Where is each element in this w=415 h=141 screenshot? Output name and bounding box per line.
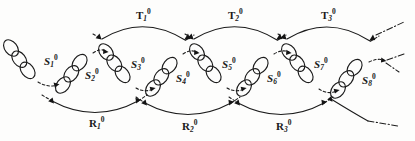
link-arrow-S7-S8: [319, 89, 340, 94]
figure-root: S10 S20 S30 S40 S50 S60 S70 S80 T10 T20: [0, 0, 415, 141]
node-label-S1: S10: [44, 53, 58, 69]
node-chain-S5[interactable]: [186, 41, 224, 86]
bottom-arc-R3[interactable]: [229, 97, 333, 115]
arc-label-T1: T10: [136, 7, 151, 23]
node-chain-S1[interactable]: [0, 37, 38, 82]
top-arc-T1[interactable]: [93, 27, 194, 40]
node-chain-S4[interactable]: [142, 55, 180, 100]
diagram-canvas: S10 S20 S30 S40 S50 S60 S70 S80 T10 T20: [0, 0, 415, 141]
continuation-middle-right: [369, 54, 404, 72]
link-arrow-S2-S3: [93, 49, 109, 54]
node-label-S3: S30: [131, 56, 145, 72]
arc-label-R2: R20: [182, 118, 198, 134]
arc-label-R3: R30: [276, 118, 292, 134]
node-chain-S8[interactable]: [327, 57, 365, 102]
node-label-S5: S50: [222, 56, 236, 72]
arc-label-R1: R10: [89, 115, 105, 131]
arc-label-T3: T30: [321, 7, 336, 23]
continuation-top-right: [376, 22, 404, 35]
link-arrow-S1-S2: [38, 82, 60, 88]
node-label-S6: S60: [267, 70, 281, 86]
bottom-arc-R1[interactable]: [42, 95, 147, 113]
node-chain-S7[interactable]: [278, 41, 316, 86]
node-label-S7: S70: [314, 56, 328, 72]
node-chain-S3[interactable]: [95, 41, 133, 86]
bottom-arc-R2[interactable]: [136, 97, 240, 115]
top-arc-T2[interactable]: [185, 27, 286, 40]
node-label-S4: S40: [176, 70, 190, 86]
node-label-S2: S20: [85, 67, 99, 83]
continuation-bottom-right: [327, 96, 398, 126]
top-arc-T3[interactable]: [278, 27, 379, 41]
node-chain-S6[interactable]: [233, 55, 271, 100]
arc-label-T2: T20: [228, 7, 243, 23]
node-label-S8: S80: [362, 72, 376, 88]
